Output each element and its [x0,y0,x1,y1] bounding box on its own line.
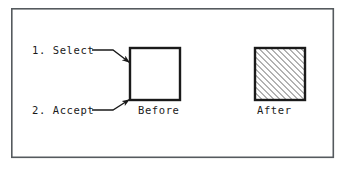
step-1-label: 1. Select [32,44,94,56]
before-square[interactable] [130,48,180,100]
after-square-hatched[interactable] [255,48,305,100]
after-caption-label: After [257,104,292,116]
step-2-label: 2. Accept [32,104,94,116]
leader-line-select [92,50,130,63]
before-caption-label: Before [138,104,180,116]
leader-line-accept [92,100,130,111]
cad-figure: 1. Select 2. Accept Before After [0,0,346,171]
figure-canvas: 1. Select 2. Accept Before After [0,0,346,171]
